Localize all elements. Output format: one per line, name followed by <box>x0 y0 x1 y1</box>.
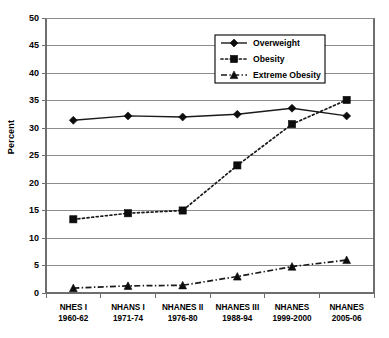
data-point-marker <box>179 113 187 121</box>
x-tick-label: NHANES <box>329 303 364 312</box>
data-point-marker <box>230 55 237 62</box>
x-tick-label: 1999-2000 <box>272 314 312 323</box>
data-point-marker <box>124 210 131 217</box>
x-tick-label: 2005-06 <box>332 314 362 323</box>
y-tick-label: 15 <box>29 205 39 215</box>
x-tick-label: NHANES III <box>215 303 259 312</box>
legend-label: Obesity <box>253 54 285 64</box>
data-point-marker <box>234 162 241 169</box>
y-tick-label: 35 <box>29 95 39 105</box>
chart-container: Percent 05101520253035404550 NHES I1960-… <box>0 0 389 338</box>
x-axis-labels: NHES I1960-62NHANS I1971-74NHANES II1976… <box>58 303 364 323</box>
legend-label: Overweight <box>253 38 300 48</box>
data-series <box>69 96 350 291</box>
data-point-marker <box>288 104 296 112</box>
y-tick-label: 25 <box>29 150 39 160</box>
y-tick-label: 20 <box>29 178 39 188</box>
data-point-marker <box>69 116 77 124</box>
legend-label: Extreme Obesity <box>253 70 321 80</box>
x-tick-label: NHES I <box>60 303 87 312</box>
data-point-marker <box>288 121 295 128</box>
series-overweight <box>69 104 350 124</box>
x-tick-label: 1960-62 <box>58 314 88 323</box>
x-tick-label: 1976-80 <box>168 314 198 323</box>
y-tick-label: 0 <box>34 288 39 298</box>
x-axis-ticks <box>46 293 374 298</box>
series-extreme-obesity <box>69 256 350 292</box>
y-tick-label: 45 <box>29 40 39 50</box>
y-axis-ticks: 05101520253035404550 <box>29 13 46 298</box>
legend-item-obesity[interactable]: Obesity <box>221 54 285 64</box>
data-point-marker <box>179 207 186 214</box>
y-tick-label: 40 <box>29 68 39 78</box>
y-tick-label: 10 <box>29 233 39 243</box>
x-tick-label: 1988-94 <box>222 314 252 323</box>
data-point-marker <box>70 216 77 223</box>
y-tick-label: 5 <box>34 260 39 270</box>
x-tick-label: NHANS I <box>111 303 145 312</box>
x-tick-label: NHANES II <box>162 303 203 312</box>
x-tick-label: NHANES <box>275 303 310 312</box>
chart-legend: OverweightObesityExtreme Obesity <box>215 35 325 83</box>
y-tick-label: 50 <box>29 13 39 23</box>
chart-plot-area: 05101520253035404550 NHES I1960-62NHANS … <box>0 0 389 338</box>
data-point-marker <box>343 96 350 103</box>
x-tick-label: 1971-74 <box>113 314 143 323</box>
data-point-marker <box>233 110 241 118</box>
y-tick-label: 30 <box>29 123 39 133</box>
data-point-marker <box>343 112 351 120</box>
data-point-marker <box>124 112 132 120</box>
